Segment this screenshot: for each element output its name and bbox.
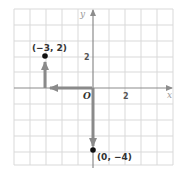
origin-label: O xyxy=(83,91,91,101)
coordinate-plane: y x O 2 2 (−3, 2) (0, −4) xyxy=(0,0,189,175)
point-neg3-2 xyxy=(42,53,48,59)
point-label-0-neg4: (0, −4) xyxy=(97,152,132,162)
x-tick-label: 2 xyxy=(123,92,129,101)
y-tick-label: 2 xyxy=(84,53,90,62)
point-label-neg3-2: (−3, 2) xyxy=(32,43,67,53)
y-axis-label: y xyxy=(79,9,86,19)
point-0-neg4 xyxy=(90,147,96,153)
x-axis-label: x xyxy=(167,90,172,100)
